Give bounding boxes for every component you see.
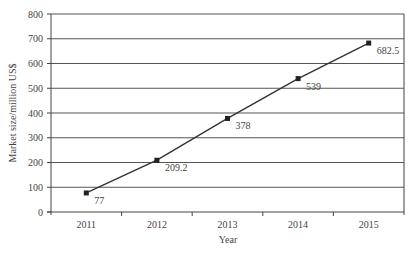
y-tick-label: 700 [28, 33, 43, 44]
x-tick-label: 2015 [359, 219, 379, 230]
x-tick-label: 2014 [288, 219, 308, 230]
data-point-marker [154, 158, 159, 163]
data-point-marker [296, 76, 301, 81]
data-point-marker [225, 116, 230, 121]
gridlines [51, 14, 404, 187]
x-axis-title: Year [219, 234, 238, 245]
data-label: 539 [306, 81, 321, 92]
y-tick-label: 800 [28, 9, 43, 20]
data-label: 209.2 [165, 162, 188, 173]
x-tick-label: 2011 [76, 219, 96, 230]
x-tick-label: 2013 [218, 219, 238, 230]
data-label: 682.5 [377, 45, 400, 56]
data-label: 378 [236, 120, 251, 131]
plot-area-frame [47, 14, 404, 215]
y-tick-label: 100 [28, 182, 43, 193]
y-tick-label: 300 [28, 132, 43, 143]
data-label: 77 [94, 195, 104, 206]
data-point-marker [84, 190, 89, 195]
series-market-size: 77209.2378539682.5 [84, 41, 399, 206]
x-axis: 20112012201320142015 [76, 212, 378, 230]
y-tick-label: 500 [28, 83, 43, 94]
data-point-marker [366, 41, 371, 46]
x-tick-label: 2012 [147, 219, 167, 230]
y-axis: 0100200300400500600700800 [28, 9, 51, 218]
y-tick-label: 600 [28, 58, 43, 69]
y-tick-label: 400 [28, 108, 43, 119]
y-tick-label: 200 [28, 157, 43, 168]
line-chart: 0100200300400500600700800 20112012201320… [0, 0, 412, 257]
y-axis-title: Market size/million US$ [7, 64, 18, 163]
y-tick-label: 0 [38, 207, 43, 218]
